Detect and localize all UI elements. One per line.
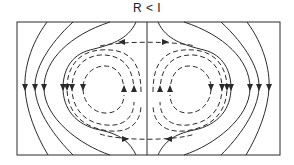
flow-diagram <box>0 0 294 165</box>
arrow-down-icon <box>69 84 75 91</box>
cell-right-outer <box>153 50 227 131</box>
arrow-down-icon <box>80 84 86 91</box>
cell-left-inner <box>83 66 124 113</box>
arrow-down-icon <box>247 84 253 91</box>
arrow-up-icon <box>131 85 137 92</box>
arrow-down-icon <box>228 84 234 91</box>
arrow-up-icon <box>167 85 173 92</box>
arrow-down-icon <box>208 84 214 91</box>
arrow-up-icon <box>157 85 163 92</box>
arrow-down-icon <box>256 84 262 91</box>
arrow-down-icon <box>32 84 38 91</box>
cell-right-inner <box>170 66 211 113</box>
arrow-down-icon <box>41 84 47 91</box>
cell-left-outer <box>67 50 141 131</box>
arrow-down-icon <box>219 84 225 91</box>
arrow-down-icon <box>22 84 28 91</box>
arrow-down-icon <box>266 84 272 91</box>
arrow-down-icon <box>64 84 70 91</box>
arrow-right-icon <box>162 39 169 45</box>
arrow-up-icon <box>121 85 127 92</box>
